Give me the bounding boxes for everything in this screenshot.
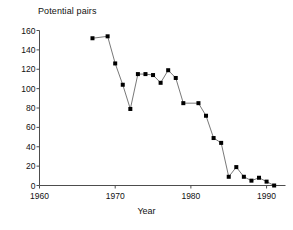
y-tick-label: 160	[14, 26, 36, 36]
data-point	[90, 36, 94, 40]
y-tick-label: 20	[14, 161, 36, 171]
chart-figure: Potential pairs 020406080100120140160 19…	[0, 0, 293, 230]
data-point	[136, 72, 140, 76]
x-tick-label: 1990	[250, 191, 284, 201]
y-tick-label: 0	[14, 181, 36, 191]
data-point	[212, 136, 216, 140]
y-tick-label: 120	[14, 64, 36, 74]
data-point	[265, 180, 269, 184]
y-tick-label: 100	[14, 84, 36, 94]
data-line	[92, 36, 274, 185]
data-point	[128, 107, 132, 111]
y-tick-label: 60	[14, 122, 36, 132]
x-tick-label: 1980	[174, 191, 208, 201]
x-tick-label: 1960	[23, 191, 57, 201]
data-point	[159, 81, 163, 85]
data-point	[151, 73, 155, 77]
data-point	[257, 176, 261, 180]
data-point	[166, 68, 170, 72]
data-point	[113, 61, 117, 65]
data-point	[143, 72, 147, 76]
x-tick-label: 1970	[98, 191, 132, 201]
data-point	[106, 34, 110, 38]
data-point	[121, 83, 125, 87]
x-axis-label: Year	[0, 206, 293, 217]
data-markers	[90, 34, 276, 187]
data-point	[234, 165, 238, 169]
data-point	[272, 184, 276, 188]
data-point	[204, 114, 208, 118]
data-point	[242, 175, 246, 179]
data-point	[219, 141, 223, 145]
data-point	[249, 179, 253, 183]
y-tick-label: 40	[14, 142, 36, 152]
data-point	[181, 101, 185, 105]
data-point	[227, 175, 231, 179]
data-point	[174, 76, 178, 80]
y-tick-label: 80	[14, 103, 36, 113]
data-point	[196, 101, 200, 105]
y-tick-label: 140	[14, 45, 36, 55]
